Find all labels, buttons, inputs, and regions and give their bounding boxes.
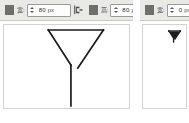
width-icon-left (5, 5, 14, 15)
width-icon-right (145, 5, 154, 15)
height-label-left: 高: (101, 7, 109, 13)
panel-right: 宽: 0 px (140, 0, 189, 123)
width-value-left: 80 (39, 7, 46, 13)
stepper-up-icon[interactable] (30, 7, 34, 9)
height-input-left[interactable]: 80 px (110, 4, 133, 17)
screenshot-root: 宽: 80 px 高: (0, 0, 189, 123)
width-input-right[interactable]: 0 px (167, 4, 189, 17)
toolbar-left: 宽: 80 px 高: (0, 0, 133, 21)
chain-link-icon[interactable] (73, 4, 84, 16)
height-value-left: 80 (122, 7, 129, 13)
panel-left: 宽: 80 px 高: (0, 0, 133, 123)
height-icon-left (89, 5, 98, 15)
width-unit-left: px (48, 7, 54, 13)
canvas-left[interactable] (3, 24, 130, 109)
stepper-down-icon[interactable] (30, 11, 34, 13)
stepper-up-icon[interactable] (114, 7, 118, 9)
stepper-up-icon[interactable] (170, 7, 174, 9)
height-unit-left: px (131, 7, 133, 13)
width-label-right: 宽: (157, 7, 165, 13)
canvas-right[interactable] (142, 24, 187, 109)
toolbar-right: 宽: 0 px (140, 0, 189, 21)
funnel-outline-small (143, 25, 186, 108)
width-value-right: 0 (179, 7, 183, 13)
width-stepper-right[interactable] (169, 5, 176, 16)
stepper-down-icon[interactable] (170, 11, 174, 13)
width-stepper-left[interactable] (29, 5, 36, 16)
width-unit-right: px (184, 7, 189, 13)
stepper-down-icon[interactable] (114, 11, 118, 13)
funnel-outline (4, 25, 129, 108)
panel-divider (136, 0, 137, 123)
width-label-left: 宽: (17, 7, 25, 13)
width-input-left[interactable]: 80 px (27, 4, 71, 17)
height-stepper-left[interactable] (112, 5, 119, 16)
